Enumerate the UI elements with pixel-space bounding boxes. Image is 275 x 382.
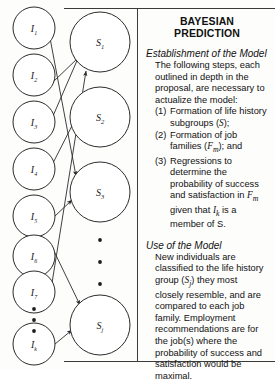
ellipsis-dot: [98, 282, 102, 286]
list-item-text: Formation of life history subgroups (S);: [170, 106, 267, 128]
ellipsis-dot: [32, 329, 36, 333]
diagram-edge-ik-to-sj: [55, 330, 72, 344]
list-item-text: Regressions to determine the probability…: [170, 156, 259, 230]
section-heading-use: Use of the Model: [146, 240, 268, 251]
text-pane: BAYESIAN PREDICTION Establishment of the…: [140, 8, 272, 361]
frame-vertical-divider: [137, 8, 138, 362]
establishment-steps-list: (1)Formation of life history subgroups (…: [146, 106, 268, 231]
panel-title: BAYESIAN PREDICTION: [146, 15, 268, 39]
diagram-left-nodes: I1I2I3I4I5I6I7Ik: [13, 7, 55, 365]
list-item: (1)Formation of life history subgroups (…: [155, 106, 268, 129]
section-heading-establishment: Establishment of the Model: [146, 48, 268, 59]
list-item: (3)Regressions to determine the probabil…: [155, 156, 268, 231]
diagram-right-nodes: S1S2S3Sj: [70, 12, 130, 355]
ellipsis-dot: [32, 307, 36, 311]
list-item-text: Formation of job families (Fm); and: [170, 130, 242, 152]
section-intro-use: New individuals are classified to the li…: [155, 252, 268, 382]
list-marker: (2): [155, 130, 170, 142]
ellipsis-dot: [98, 238, 102, 242]
ellipsis-dot: [98, 260, 102, 264]
diagram-pane: I1I2I3I4I5I6I7Ik S1S2S3Sj: [0, 0, 137, 369]
ellipsis-dot: [32, 318, 36, 322]
list-marker: (1): [155, 106, 170, 118]
section-intro-establishment: The following steps, each outlined in de…: [155, 60, 268, 106]
diagram-edge-i2-to-s1: [53, 57, 79, 82]
section-gap: [146, 231, 268, 240]
list-item: (2)Formation of job families (Fm); and: [155, 130, 268, 156]
list-marker: (3): [155, 156, 170, 168]
node-diagram-svg: I1I2I3I4I5I6I7Ik S1S2S3Sj: [0, 0, 137, 369]
